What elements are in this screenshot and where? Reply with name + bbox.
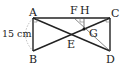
point-g-dot	[83, 28, 86, 31]
label-d: D	[106, 53, 115, 66]
label-f: F	[70, 4, 78, 17]
label-a: A	[28, 6, 38, 19]
label-h: H	[80, 4, 90, 17]
measurement-ab: 15 cm	[2, 28, 31, 39]
label-c: C	[111, 7, 119, 20]
geometry-diagram: A B C D E F H G 15 cm	[0, 0, 121, 66]
label-g: G	[89, 27, 98, 40]
label-b: B	[29, 53, 37, 66]
label-e: E	[67, 38, 75, 51]
